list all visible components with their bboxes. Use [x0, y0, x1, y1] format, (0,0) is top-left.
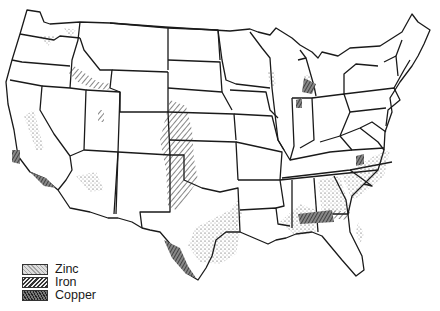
zinc-pattern-swatch — [22, 264, 48, 275]
legend-item-copper: Copper — [22, 289, 96, 302]
iron-pattern-swatch — [22, 277, 48, 288]
map-legend: Zinc Iron Copper — [22, 263, 96, 302]
copper-pattern-swatch — [22, 290, 48, 301]
zinc-deposits — [24, 28, 390, 264]
legend-label: Copper — [55, 289, 96, 302]
